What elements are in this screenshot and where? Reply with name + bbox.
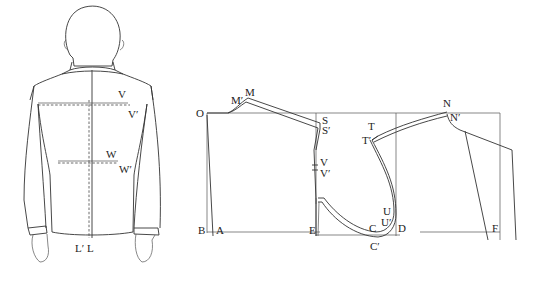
shoulder-line-M — [207, 98, 320, 123]
label-N-prime: N′ — [450, 111, 460, 123]
hand-left — [32, 234, 49, 262]
label-L-prime: L′ — [75, 242, 84, 254]
label-C: C — [369, 222, 376, 234]
sleeve-cap-T — [372, 112, 447, 140]
label-N: N — [443, 97, 451, 109]
arm-left-inner — [38, 104, 46, 228]
label-O: O — [196, 107, 204, 119]
armhole-line-E — [318, 202, 319, 236]
right-panel-dart — [465, 131, 488, 240]
label-L: L — [87, 242, 94, 254]
label-F: F — [492, 222, 498, 234]
label-V-prime: V′ — [320, 167, 330, 179]
line-A — [207, 115, 213, 236]
diagram-canvas: V V′ W W′ L′ L — [0, 0, 537, 285]
label-E: E — [309, 224, 316, 236]
label-M-prime: M′ — [231, 94, 243, 106]
shoulder-right — [123, 74, 153, 100]
label-W: W — [106, 148, 117, 160]
label-C-prime: C′ — [370, 240, 380, 252]
label-W-prime: W′ — [119, 163, 132, 175]
arm-right-outer — [151, 86, 160, 228]
ear-right — [120, 40, 124, 50]
label-T: T — [368, 120, 375, 132]
label-A: A — [216, 224, 224, 236]
figure-back-view: V V′ W W′ L′ L — [24, 6, 160, 262]
label-M: M — [245, 86, 255, 98]
side-seam-S — [316, 129, 320, 150]
jacket-hem — [52, 232, 133, 235]
pattern-draft: O M′ M S S′ V V′ T T′ N N′ B A E C C′ U … — [196, 86, 516, 252]
label-D: D — [398, 222, 406, 234]
cuff-left — [28, 226, 47, 235]
label-B: B — [198, 224, 205, 236]
arm-left-outer — [24, 86, 34, 228]
label-V: V — [118, 88, 126, 100]
shoulder-left — [30, 74, 62, 100]
label-T-prime: T′ — [362, 134, 371, 146]
cuff-right — [134, 228, 159, 235]
right-panel-edge — [447, 114, 516, 240]
collar-lower — [62, 70, 123, 74]
label-S-prime: S′ — [322, 124, 331, 136]
head-outline — [66, 6, 121, 66]
label-V-prime: V′ — [128, 108, 138, 120]
label-U-prime: U′ — [381, 216, 391, 228]
sleeve-cap-T-prime — [374, 116, 447, 142]
hand-right — [135, 234, 155, 262]
